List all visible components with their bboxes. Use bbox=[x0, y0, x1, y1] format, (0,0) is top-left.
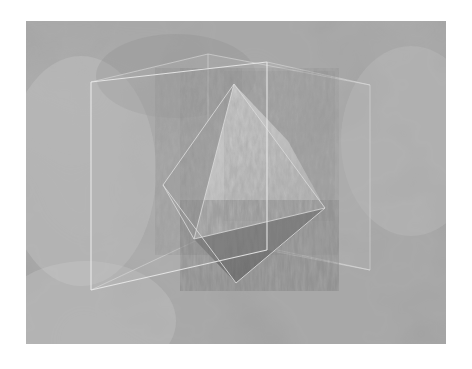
figure-frame bbox=[26, 21, 446, 344]
page-root bbox=[0, 0, 472, 369]
scene-haze bbox=[26, 21, 446, 344]
render-canvas bbox=[26, 21, 446, 344]
